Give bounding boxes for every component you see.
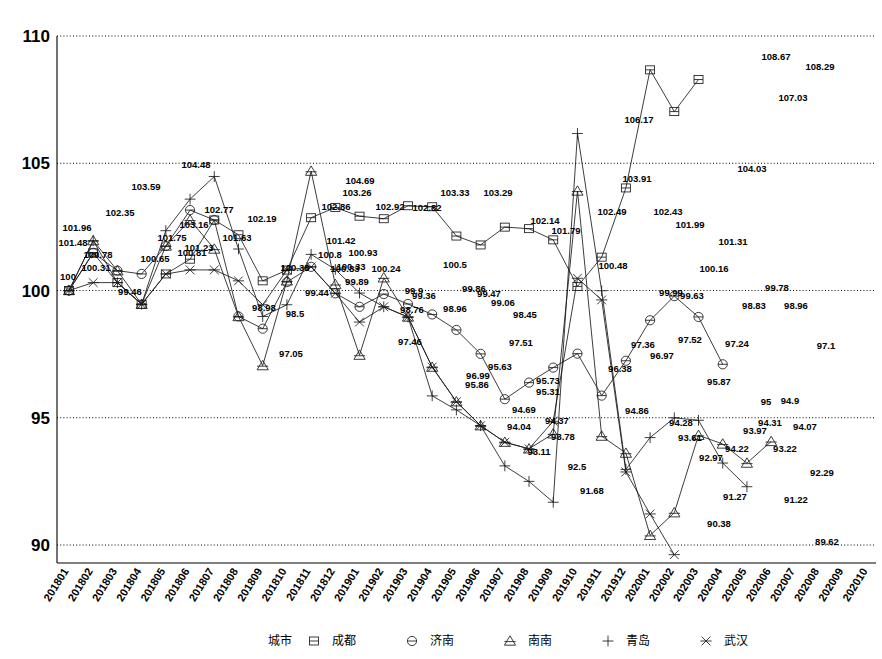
data-label: 98.98	[252, 302, 276, 313]
marker-x	[354, 318, 365, 327]
data-label: 94.04	[507, 421, 531, 432]
data-label: 101.99	[675, 219, 704, 230]
data-point-labels: 100101.96101.48100.78100.3199.46102.3510…	[58, 51, 838, 547]
marker-square	[646, 66, 655, 74]
data-label: 101.96	[62, 222, 91, 233]
data-label: 97.51	[509, 337, 533, 348]
data-label: 93.22	[773, 443, 797, 454]
legend-title: 城市	[268, 633, 292, 648]
data-label: 101.79	[551, 225, 580, 236]
data-label: 103.59	[131, 181, 160, 192]
data-label: 97.36	[631, 339, 655, 350]
data-label: 108.67	[761, 51, 790, 62]
data-label: 93.61	[678, 432, 702, 443]
marker-plus	[693, 415, 704, 426]
data-label: 101.48	[58, 237, 87, 248]
data-label: 102.19	[247, 213, 276, 224]
data-label: 95.31	[536, 386, 560, 397]
marker-x	[184, 265, 195, 274]
data-label: 90.38	[707, 518, 731, 529]
data-label: 99.44	[305, 287, 329, 298]
data-label: 93.78	[551, 431, 575, 442]
marker-plus	[427, 390, 438, 401]
data-label: 101.42	[326, 235, 355, 246]
data-label: 100.24	[371, 263, 401, 274]
data-label: 102.86	[321, 201, 350, 212]
marker-triangle	[504, 636, 515, 645]
marker-circle	[597, 391, 606, 400]
marker-plus	[306, 249, 317, 260]
marker-square	[694, 76, 703, 84]
data-label: 94.31	[758, 417, 782, 428]
marker-circle	[500, 395, 509, 404]
legend-item-label: 济南	[430, 633, 454, 648]
marker-x	[233, 276, 244, 285]
data-label: 94.37	[545, 415, 569, 426]
data-label: 103.29	[483, 187, 512, 198]
legend-item-济南[interactable]: 济南	[407, 633, 454, 648]
marker-square	[621, 184, 630, 192]
y-tick-label: 100	[22, 282, 50, 301]
legend-item-成都[interactable]: 成都	[310, 634, 357, 648]
data-label: 95.86	[465, 379, 489, 390]
data-label: 98.76	[400, 304, 424, 315]
data-label: 94.69	[512, 404, 536, 415]
data-label: 95	[761, 396, 772, 407]
marker-square	[403, 202, 412, 210]
marker-triangle	[306, 166, 317, 175]
marker-plus	[499, 460, 510, 471]
legend-item-武汉[interactable]: 武汉	[700, 634, 748, 648]
data-label: 100.38	[280, 262, 309, 273]
y-tick-label: 90	[31, 536, 50, 555]
chart-canvas: 9095100105110 100101.96101.48100.78100.3…	[0, 0, 882, 659]
data-label: 100.93	[348, 247, 377, 258]
marker-circle	[428, 310, 437, 319]
data-label: 99.89	[345, 276, 369, 287]
marker-circle	[549, 363, 558, 372]
data-label: 102.82	[412, 202, 441, 213]
marker-plus	[645, 432, 656, 443]
svg-text:202010: 202010	[840, 566, 870, 603]
data-label: 97.52	[678, 334, 702, 345]
y-tick-label: 95	[31, 409, 50, 428]
marker-x	[88, 278, 99, 287]
marker-square	[307, 214, 316, 222]
data-label: 102.43	[653, 206, 682, 217]
marker-x	[644, 510, 655, 519]
data-label: 100.81	[177, 247, 207, 258]
data-label: 104.03	[737, 163, 766, 174]
marker-plus	[233, 244, 244, 255]
marker-x	[209, 265, 220, 274]
y-tick-label: 105	[22, 154, 50, 173]
legend-item-南南[interactable]: 南南	[504, 633, 552, 648]
data-label: 101.31	[718, 236, 748, 247]
data-label: 96.38	[608, 363, 632, 374]
data-label: 100.8	[318, 249, 342, 260]
data-label: 96.97	[650, 350, 674, 361]
marker-circle	[185, 205, 194, 214]
marker-x	[700, 637, 711, 646]
legend-item-青岛[interactable]: 青岛	[603, 633, 650, 648]
y-axis-tick-labels: 9095100105110	[22, 27, 50, 555]
data-label: 94.22	[725, 443, 749, 454]
marker-circle	[476, 349, 485, 358]
data-label: 102.77	[204, 204, 233, 215]
data-label: 97.1	[817, 340, 836, 351]
data-label: 98.96	[784, 300, 808, 311]
marker-circle	[573, 349, 582, 358]
data-label: 99.06	[491, 297, 515, 308]
marker-x	[160, 270, 171, 279]
series-line-武汉	[69, 267, 674, 555]
marker-plus	[596, 285, 607, 296]
data-label: 100	[60, 271, 76, 282]
x-axis-tick-labels: 2018012018022018032018042018052018062018…	[41, 565, 870, 603]
marker-circle	[524, 378, 533, 387]
data-label: 94.07	[793, 421, 817, 432]
marker-circle	[645, 316, 654, 325]
marker-square	[573, 282, 582, 290]
line-chart: 9095100105110 100101.96101.48100.78100.3…	[0, 0, 882, 659]
data-label: 103.91	[622, 173, 652, 184]
data-label: 94.86	[625, 405, 649, 416]
data-label: 98.5	[286, 308, 305, 319]
data-label: 100.16	[699, 263, 728, 274]
